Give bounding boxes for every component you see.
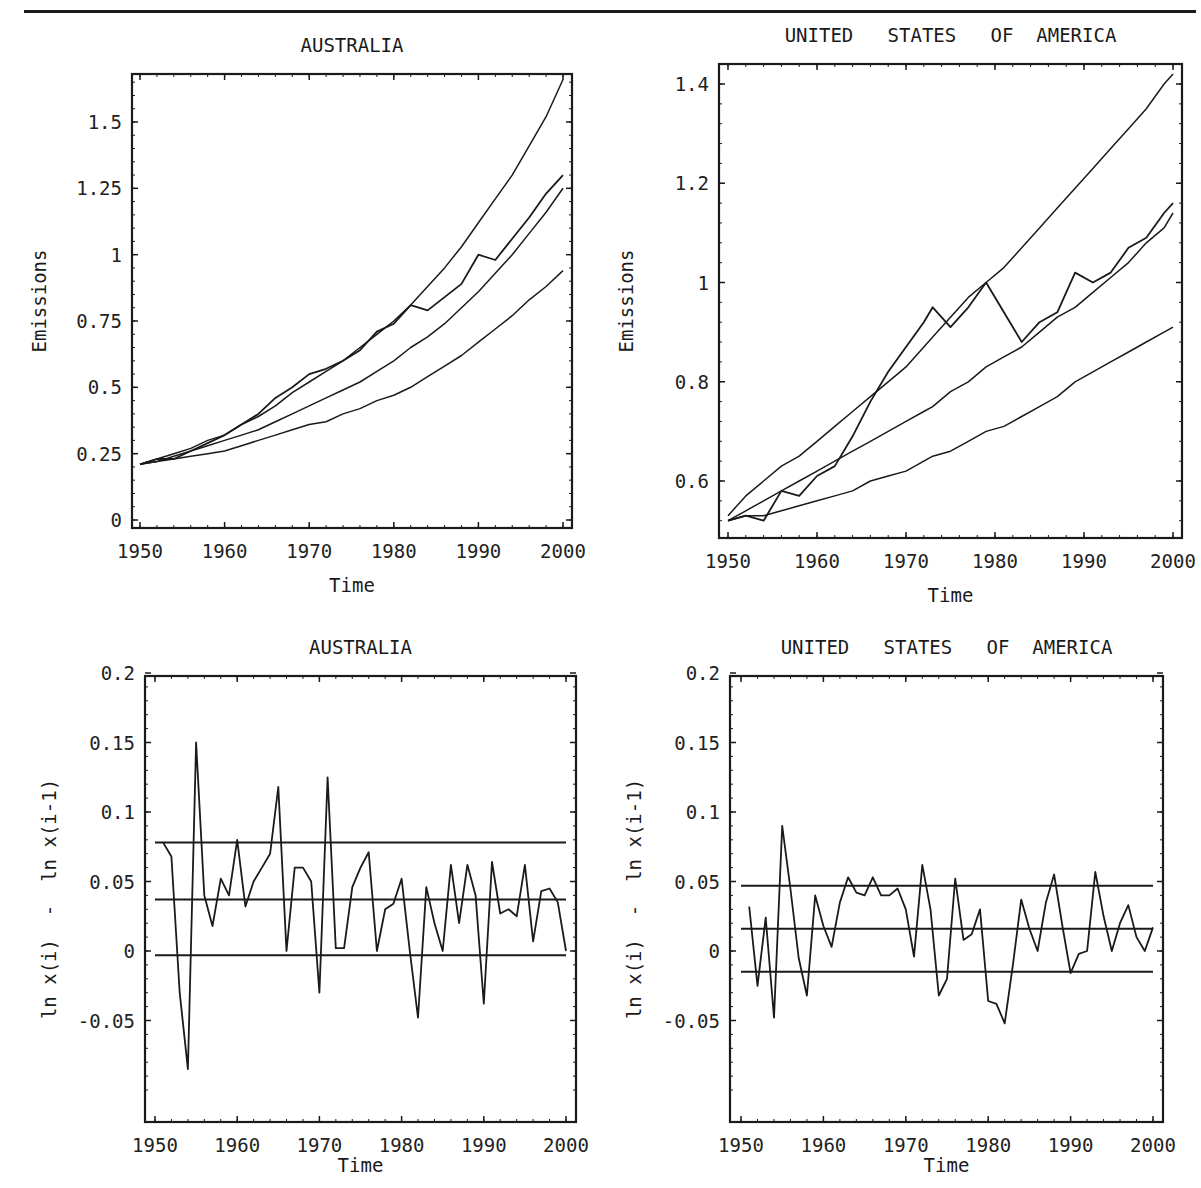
y-tick-label: -0.05 (663, 1010, 720, 1032)
y-tick-label: 0 (709, 940, 720, 962)
x-tick-label: 1960 (801, 1134, 847, 1156)
y-tick-label: 0.1 (686, 801, 720, 823)
x-tick-label: 1990 (1048, 1134, 1094, 1156)
x-tick-label: 2000 (1130, 1134, 1176, 1156)
x-tick-label: 1970 (883, 1134, 929, 1156)
plot-frame (730, 676, 1163, 1122)
y-tick-label: 0.2 (686, 662, 720, 684)
series-growth-rate (749, 826, 1153, 1023)
x-tick-label: 1950 (718, 1134, 764, 1156)
plot-area: -0.0500.050.10.150.219501960197019801990… (0, 0, 1201, 1188)
y-tick-label: 0.05 (674, 871, 720, 893)
x-tick-label: 1980 (965, 1134, 1011, 1156)
y-tick-label: 0.15 (674, 732, 720, 754)
